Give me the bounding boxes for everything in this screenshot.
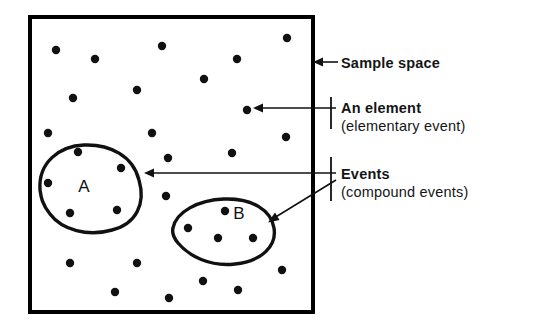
event-region-a-label: A xyxy=(78,177,90,196)
sample-space-label: Sample space xyxy=(341,55,440,71)
an-element-arrow-head-icon xyxy=(253,104,263,113)
elementary-event-dot xyxy=(278,266,286,274)
event-region-b: B xyxy=(173,199,275,265)
diagram-canvas: A B Sample space An element (elementary … xyxy=(0,0,538,330)
an-element-label-line1: An element xyxy=(341,100,421,116)
annotation-events: Events (compound events) xyxy=(144,157,469,223)
elementary-event-dot xyxy=(162,192,170,200)
events-arrow-head-to-a-icon xyxy=(144,169,154,178)
elementary-event-dot xyxy=(66,259,74,267)
sample-space-box xyxy=(30,17,313,312)
elementary-event-dot xyxy=(133,86,141,94)
elementary-event-dot xyxy=(44,129,52,137)
an-element-label-line2: (elementary event) xyxy=(341,118,466,134)
annotation-sample-space: Sample space xyxy=(313,55,440,71)
elementary-event-dot xyxy=(234,286,242,294)
elementary-event-dot xyxy=(133,259,141,267)
elementary-event-dots xyxy=(44,34,291,302)
annotation-an-element: An element (elementary event) xyxy=(253,97,466,134)
elementary-event-dot xyxy=(52,46,60,54)
event-region-b-dots xyxy=(184,207,257,242)
event-member-dot xyxy=(221,207,229,215)
event-member-dot xyxy=(117,164,125,172)
elementary-event-dot xyxy=(165,294,173,302)
event-member-dot xyxy=(214,234,222,242)
event-member-dot xyxy=(66,209,74,217)
elementary-event-dot xyxy=(243,106,251,114)
events-leader-line-to-b xyxy=(274,180,336,218)
elementary-event-dot xyxy=(283,34,291,42)
event-region-a-outline xyxy=(40,145,141,233)
events-label-line2: (compound events) xyxy=(341,184,469,200)
event-member-dot xyxy=(113,206,121,214)
elementary-event-dot xyxy=(164,154,172,162)
elementary-event-dot xyxy=(91,55,99,63)
event-region-a: A xyxy=(40,145,141,233)
elementary-event-dot xyxy=(233,55,241,63)
elementary-event-dot xyxy=(158,42,166,50)
event-member-dot xyxy=(249,234,257,242)
event-region-b-label: B xyxy=(233,204,244,223)
elementary-event-dot xyxy=(200,75,208,83)
elementary-event-dot xyxy=(111,288,119,296)
event-member-dot xyxy=(184,224,192,232)
probability-sample-space-diagram: A B Sample space An element (elementary … xyxy=(0,0,538,330)
elementary-event-dot xyxy=(282,133,290,141)
elementary-event-dot xyxy=(148,129,156,137)
events-label-line1: Events xyxy=(341,166,390,182)
event-member-dot xyxy=(44,179,52,187)
elementary-event-dot xyxy=(228,149,236,157)
elementary-event-dot xyxy=(69,94,77,102)
elementary-event-dot xyxy=(199,277,207,285)
event-member-dot xyxy=(74,148,82,156)
